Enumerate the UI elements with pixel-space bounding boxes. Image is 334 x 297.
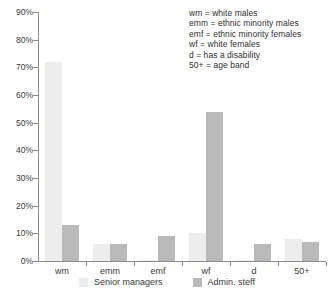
y-axis-tick-label: 10% [16, 228, 33, 238]
bar [189, 233, 206, 261]
y-axis-tick-label: 20% [16, 201, 33, 211]
legend-label: Admin. steff [208, 277, 255, 287]
y-axis-tick-label: 0% [21, 256, 33, 266]
bar-chart: wm = white males emm = ethnic minority m… [0, 0, 334, 297]
x-axis-tick-label: wm [55, 266, 69, 276]
legend-item-senior-managers: Senior managers [79, 277, 163, 287]
y-axis-tick-label: 40% [16, 145, 33, 155]
y-axis-tick-label: 30% [16, 173, 33, 183]
legend-swatch-icon [193, 278, 202, 287]
legend-item-admin-staff: Admin. steff [193, 277, 255, 287]
series-legend: Senior managers Admin. steff [0, 277, 334, 297]
y-axis-tick-label: 50% [16, 118, 33, 128]
bar [285, 239, 302, 261]
y-axis-tick-label: 70% [16, 62, 33, 72]
legend-label: Senior managers [94, 277, 163, 287]
bar [237, 260, 254, 262]
y-axis-tick-label: 80% [16, 35, 33, 45]
x-axis-tick-label: d [251, 266, 256, 276]
plot-area: 0%10%20%30%40%50%60%70%80%90% wmemmemfwf… [0, 0, 334, 270]
y-axis-tick-label: 90% [16, 7, 33, 17]
bar [45, 62, 62, 261]
bar [93, 244, 110, 261]
bar [158, 236, 175, 261]
bar [141, 260, 158, 262]
legend-swatch-icon [79, 278, 88, 287]
bar [206, 112, 223, 261]
x-axis-tick-label: emm [100, 266, 120, 276]
bars-layer [38, 12, 326, 261]
x-axis-tick-label: emf [150, 266, 165, 276]
bar [110, 244, 127, 261]
bar [62, 225, 79, 261]
y-axis-labels: 0%10%20%30%40%50%60%70%80%90% [0, 0, 36, 270]
y-axis-tick-label: 60% [16, 90, 33, 100]
x-axis-tick-label: wf [202, 266, 211, 276]
bar [254, 244, 271, 261]
x-axis-tick [326, 262, 327, 266]
x-axis-tick-label: 50+ [294, 266, 309, 276]
bar [302, 242, 319, 261]
